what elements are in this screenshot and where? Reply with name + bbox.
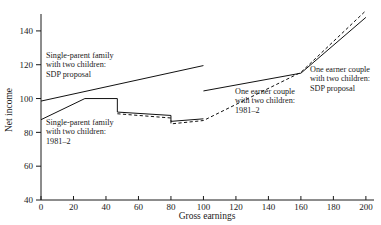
annotation-line: Single-parent family xyxy=(46,118,114,127)
annotation-line: with two children: xyxy=(235,96,295,105)
annotation-line: 1981–2 xyxy=(46,137,71,146)
y-tick-label: 60 xyxy=(24,161,34,171)
y-axis-ticks: 406080100120140 xyxy=(20,26,42,205)
annot-one-earner-1981: One earner couplewith two children:1981–… xyxy=(235,87,295,115)
x-tick-label: 180 xyxy=(327,202,341,212)
annotation-line: with two children: xyxy=(46,60,106,69)
x-axis-ticks: 020406080100120140160180200 xyxy=(39,196,373,212)
annot-one-earner-sdp: One earner couplewith two children:SDP p… xyxy=(310,65,370,93)
x-tick-label: 80 xyxy=(166,202,176,212)
annotation-line: with two children: xyxy=(310,74,370,83)
x-tick-label: 20 xyxy=(69,202,79,212)
y-tick-label: 120 xyxy=(20,60,34,70)
y-tick-label: 40 xyxy=(24,195,34,205)
annotation-line: SDP proposal xyxy=(46,70,92,79)
y-tick-label: 100 xyxy=(20,94,34,104)
x-tick-label: 60 xyxy=(134,202,144,212)
y-tick-label: 80 xyxy=(24,128,34,138)
x-tick-label: 40 xyxy=(101,202,111,212)
y-tick-label: 140 xyxy=(20,26,34,36)
annotation-line: One earner couple xyxy=(310,65,370,74)
chart-figure: 406080100120140 020406080100120140160180… xyxy=(0,0,381,225)
annotation-line: with two children: xyxy=(46,127,106,136)
x-tick-label: 140 xyxy=(262,202,276,212)
x-tick-label: 200 xyxy=(359,202,373,212)
annotation-line: 1981–2 xyxy=(235,106,260,115)
axes-group xyxy=(41,14,374,200)
x-tick-label: 160 xyxy=(294,202,308,212)
annot-single-parent-sdp: Single-parent familywith two children:SD… xyxy=(46,51,114,79)
annot-single-parent-1981: Single-parent familywith two children:19… xyxy=(46,118,114,146)
annotation-line: SDP proposal xyxy=(310,84,356,93)
annotation-line: One earner couple xyxy=(235,87,295,96)
chart-plot-area: 406080100120140 020406080100120140160180… xyxy=(0,0,381,225)
annotation-line: Single-parent family xyxy=(46,51,114,60)
x-axis-title: Gross earnings xyxy=(179,211,236,221)
y-axis-title: Net income xyxy=(4,88,14,132)
x-tick-label: 0 xyxy=(39,202,44,212)
